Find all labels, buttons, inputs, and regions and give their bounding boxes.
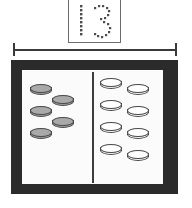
counter-top	[100, 144, 122, 153]
counter-shaded[interactable]	[30, 106, 52, 117]
dotted-number-13-icon	[69, 0, 122, 44]
measure-right-cap	[175, 43, 177, 56]
width-measure-rule	[13, 43, 177, 56]
counter-plain[interactable]	[100, 78, 122, 89]
counter-top	[100, 122, 122, 131]
counter-top	[127, 128, 149, 137]
counter-top	[127, 106, 149, 115]
counter-top	[30, 84, 52, 93]
counter-top	[52, 95, 74, 104]
counter-shaded[interactable]	[30, 84, 52, 95]
counter-top	[30, 106, 52, 115]
counter-plain[interactable]	[127, 84, 149, 95]
left-group-count: 5	[22, 70, 23, 71]
mat-divider-line	[92, 72, 94, 183]
counter-plain[interactable]	[127, 128, 149, 139]
counter-plain[interactable]	[100, 122, 122, 133]
counter-top	[127, 84, 149, 93]
measure-line	[13, 49, 177, 51]
counter-shaded[interactable]	[52, 95, 74, 106]
right-group-count: 8	[22, 70, 23, 71]
counter-top	[100, 78, 122, 87]
counter-top	[127, 150, 149, 159]
counter-top	[52, 117, 74, 126]
counter-plain[interactable]	[100, 144, 122, 155]
counter-top	[100, 100, 122, 109]
number-trace-box[interactable]: 13	[68, 0, 121, 43]
counter-shaded[interactable]	[30, 128, 52, 139]
counter-plain[interactable]	[127, 106, 149, 117]
counter-shaded[interactable]	[52, 117, 74, 128]
worksheet-canvas: 13	[0, 0, 192, 208]
counting-mat-panel[interactable]: 5 8	[22, 70, 163, 184]
counter-plain[interactable]	[127, 150, 149, 161]
counting-mat-frame: 5 8	[11, 60, 178, 194]
counter-top	[30, 128, 52, 137]
counter-plain[interactable]	[100, 100, 122, 111]
